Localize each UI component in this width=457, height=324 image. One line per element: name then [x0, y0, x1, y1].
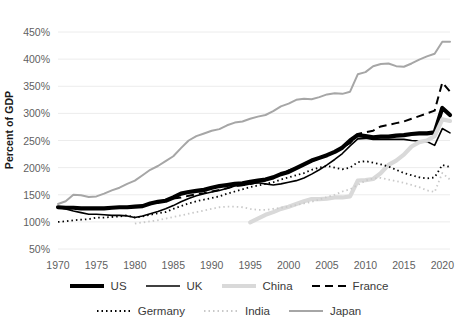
legend-row-2: GermanyIndiaJapan	[0, 298, 457, 323]
legend-label-japan: Japan	[330, 305, 361, 317]
data-series-group	[58, 42, 450, 224]
legend-swatch-india	[203, 304, 239, 318]
y-tick-label: 50%	[29, 243, 50, 255]
x-tick-label: 2015	[392, 259, 416, 271]
x-tick-label: 2010	[354, 259, 378, 271]
y-tick-label: 200%	[23, 162, 50, 174]
legend-swatch-china	[221, 279, 257, 293]
y-tick-label: 300%	[23, 107, 50, 119]
legend-label-india: India	[245, 305, 270, 317]
legend-row-1: USUKChinaFrance	[0, 273, 457, 298]
legend-item-france[interactable]: France	[311, 279, 389, 293]
series-line-uk	[58, 129, 450, 218]
x-tick-labels: 1970197519801985199019952000200520102015…	[46, 259, 454, 271]
y-tick-label: 150%	[23, 189, 50, 201]
gdp-debt-line-chart: Percent of GDP 50%100%150%200%250%300%35…	[0, 0, 457, 324]
legend-label-us: US	[111, 280, 127, 292]
legend-item-uk[interactable]: UK	[145, 279, 203, 293]
legend-label-uk: UK	[187, 280, 203, 292]
x-tick-label: 2005	[315, 259, 339, 271]
legend-label-france: France	[353, 280, 389, 292]
x-tick-label: 1975	[85, 259, 109, 271]
x-tick-label: 2000	[277, 259, 301, 271]
legend-item-india[interactable]: India	[203, 304, 270, 318]
legend-swatch-us	[69, 279, 105, 293]
x-tick-label: 1995	[238, 259, 262, 271]
x-tick-label: 1985	[162, 259, 186, 271]
y-tick-label: 350%	[23, 80, 50, 92]
legend-item-us[interactable]: US	[69, 279, 127, 293]
chart-legend: USUKChinaFranceGermanyIndiaJapan	[0, 273, 457, 324]
legend-swatch-france	[311, 279, 347, 293]
y-tick-label: 450%	[23, 26, 50, 38]
legend-item-china[interactable]: China	[221, 279, 293, 293]
legend-item-germany[interactable]: Germany	[96, 304, 185, 318]
x-tick-label: 1990	[200, 259, 224, 271]
plot-area: 50%100%150%200%250%300%350%400%450% 1970…	[0, 0, 457, 275]
y-tick-labels: 50%100%150%200%250%300%350%400%450%	[23, 26, 50, 255]
legend-label-china: China	[263, 280, 293, 292]
legend-label-germany: Germany	[138, 305, 185, 317]
legend-item-japan[interactable]: Japan	[288, 304, 361, 318]
y-tick-label: 400%	[23, 53, 50, 65]
x-tick-label: 1970	[46, 259, 70, 271]
y-tick-label: 250%	[23, 135, 50, 147]
x-tick-label: 2020	[431, 259, 455, 271]
y-tick-label: 100%	[23, 216, 50, 228]
legend-swatch-japan	[288, 304, 324, 318]
legend-swatch-uk	[145, 279, 181, 293]
legend-swatch-germany	[96, 304, 132, 318]
series-line-us	[58, 108, 450, 208]
series-line-india	[135, 173, 450, 223]
x-tick-label: 1980	[123, 259, 147, 271]
series-line-germany	[58, 161, 450, 222]
